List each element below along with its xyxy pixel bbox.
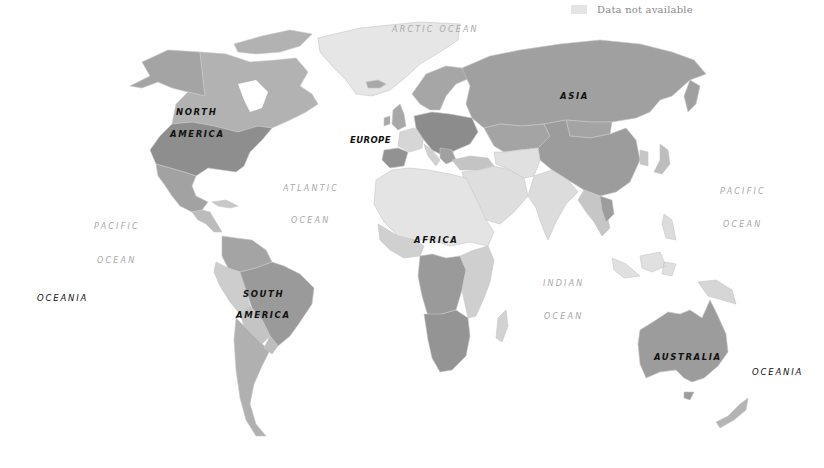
region-madagascar[interactable]	[496, 310, 508, 342]
ocean-label-indian-line1: INDIAN	[543, 279, 585, 288]
ocean-label-pacific-east-line2: OCEAN	[723, 220, 762, 229]
world-map	[0, 0, 824, 468]
ocean-label-pacific-west-line2: OCEAN	[97, 256, 136, 265]
region-arctic-islands[interactable]	[234, 30, 312, 54]
legend-label: Data not available	[597, 4, 693, 15]
region-alaska[interactable]	[130, 50, 205, 96]
continent-label-south-america-line2: AMERICA	[236, 310, 291, 320]
region-ireland[interactable]	[384, 116, 390, 126]
region-australia[interactable]	[638, 300, 728, 382]
continent-label-north-america-line1: NORTH	[176, 107, 217, 117]
region-central-america[interactable]	[192, 210, 222, 232]
continent-label-north-america-line2: AMERICA	[170, 129, 225, 139]
ocean-label-pacific-west-line1: PACIFIC	[94, 222, 140, 231]
region-russia[interactable]	[462, 40, 706, 128]
ocean-label-arctic: ARCTIC OCEAN	[392, 25, 479, 34]
region-scandinavia[interactable]	[412, 66, 470, 110]
continent-label-south-america-line1: SOUTH	[243, 289, 284, 299]
region-tasmania[interactable]	[684, 392, 694, 400]
continent-label-australia: AUSTRALIA	[654, 352, 722, 362]
ocean-label-indian-line2: OCEAN	[544, 312, 583, 321]
region-east-africa[interactable]	[460, 246, 494, 318]
continent-label-europe: EUROPE	[350, 135, 391, 145]
continent-label-oceania-west: OCEANIA	[37, 293, 88, 303]
ocean-label-atlantic-line2: OCEAN	[291, 216, 330, 225]
ocean-label-pacific-east-line1: PACIFIC	[720, 187, 766, 196]
region-central-africa[interactable]	[418, 254, 466, 316]
region-uk[interactable]	[392, 104, 406, 130]
region-japan[interactable]	[654, 144, 670, 174]
region-cuba[interactable]	[212, 200, 238, 208]
legend: Data not available	[571, 4, 693, 15]
legend-swatch-no-data	[571, 5, 587, 14]
continent-label-oceania-east: OCEANIA	[752, 367, 803, 377]
region-new-guinea[interactable]	[698, 280, 736, 304]
region-philippines[interactable]	[662, 214, 676, 240]
region-indonesia[interactable]	[612, 252, 676, 278]
continent-label-asia: ASIA	[560, 91, 589, 101]
region-korea[interactable]	[640, 150, 648, 166]
continent-label-africa: AFRICA	[414, 235, 459, 245]
region-spain[interactable]	[382, 148, 408, 168]
region-southern-africa[interactable]	[424, 310, 470, 372]
ocean-label-atlantic-line1: ATLANTIC	[283, 184, 339, 193]
region-kamchatka[interactable]	[684, 80, 700, 112]
region-new-zealand[interactable]	[716, 398, 748, 428]
